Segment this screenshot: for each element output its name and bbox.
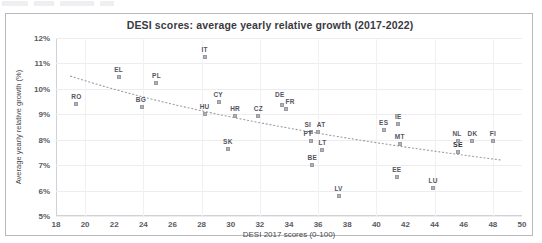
data-point-label-lv: LV (334, 185, 342, 192)
x-tick-label: 28 (197, 220, 206, 229)
data-point-label-es: ES (379, 119, 388, 126)
data-point-label-cz: CZ (254, 105, 263, 112)
data-point-label-si: SI (305, 121, 312, 128)
data-point-dk[interactable] (470, 139, 474, 143)
data-point-label-hu: HU (200, 103, 210, 110)
chart-title: DESI scores: average yearly relative gro… (6, 19, 534, 31)
data-point-label-at: AT (317, 121, 326, 128)
data-point-label-bg: BG (136, 96, 146, 103)
data-point-es[interactable] (382, 128, 386, 132)
data-point-be[interactable] (310, 163, 314, 167)
x-tick-label: 46 (459, 220, 468, 229)
data-point-label-el: EL (114, 66, 123, 73)
gridline-y-5 (56, 216, 522, 217)
data-point-at[interactable] (316, 130, 320, 134)
y-tick-label: 10% (34, 84, 50, 93)
trendline (56, 38, 522, 216)
data-point-cz[interactable] (256, 114, 260, 118)
data-point-sk[interactable] (226, 147, 230, 151)
data-point-label-be: BE (308, 154, 317, 161)
data-point-hu[interactable] (203, 112, 207, 116)
x-tick-label: 22 (110, 220, 119, 229)
data-point-lt[interactable] (320, 148, 324, 152)
y-tick-label: 9% (38, 110, 50, 119)
data-point-lu[interactable] (431, 186, 435, 190)
data-point-label-cy: CY (213, 91, 222, 98)
data-point-label-lt: LT (319, 139, 327, 146)
data-point-ro[interactable] (74, 102, 78, 106)
data-point-it[interactable] (203, 55, 207, 59)
chart-figure: DESI scores: average yearly relative gro… (5, 13, 533, 236)
data-point-label-fi: FI (490, 130, 496, 137)
y-tick-label: 12% (34, 34, 50, 43)
data-point-label-it: IT (201, 46, 207, 53)
x-tick-label: 50 (518, 220, 527, 229)
data-point-label-dk: DK (468, 130, 478, 137)
data-point-ie[interactable] (396, 122, 400, 126)
data-point-pl[interactable] (154, 81, 158, 85)
data-point-label-pl: PL (152, 72, 161, 79)
x-tick-label: 24 (139, 220, 148, 229)
scan-artifact-strip (0, 0, 542, 9)
y-tick-label: 5% (38, 212, 50, 221)
data-point-label-lu: LU (429, 177, 438, 184)
data-point-el[interactable] (117, 75, 121, 79)
data-point-label-sk: SK (223, 138, 232, 145)
x-tick-label: 40 (372, 220, 381, 229)
data-point-label-mt: MT (395, 133, 405, 140)
data-point-label-hr: HR (230, 105, 240, 112)
data-point-bg[interactable] (140, 105, 144, 109)
data-point-nl[interactable] (456, 139, 460, 143)
y-tick-label: 6% (38, 186, 50, 195)
data-point-lv[interactable] (337, 194, 341, 198)
data-point-hr[interactable] (233, 114, 237, 118)
x-tick-label: 42 (401, 220, 410, 229)
data-point-se[interactable] (456, 150, 460, 154)
x-tick-label: 32 (255, 220, 264, 229)
plot-area: 5%6%7%8%9%10%11%12% 18202224262830323436… (56, 38, 522, 216)
data-point-label-nl: NL (452, 130, 461, 137)
x-tick-label: 36 (314, 220, 323, 229)
data-point-cy[interactable] (217, 100, 221, 104)
x-tick-label: 34 (285, 220, 294, 229)
x-tick-label: 26 (168, 220, 177, 229)
data-point-label-ee: EE (392, 166, 401, 173)
data-point-label-fr: FR (286, 98, 295, 105)
y-axis-title: Average yearly relative growth (%) (14, 38, 28, 216)
data-point-mt[interactable] (398, 142, 402, 146)
x-axis-title: DESI 2017 scores (0-100) (56, 230, 522, 239)
y-tick-label: 11% (34, 59, 50, 68)
data-point-label-ie: IE (395, 113, 402, 120)
x-tick-label: 38 (343, 220, 352, 229)
x-tick-label: 18 (52, 220, 61, 229)
y-tick-label: 8% (38, 135, 50, 144)
data-point-fr[interactable] (284, 107, 288, 111)
data-point-label-pt: PT (303, 130, 312, 137)
x-tick-label: 20 (81, 220, 90, 229)
data-point-fi[interactable] (491, 139, 495, 143)
x-tick-label: 48 (488, 220, 497, 229)
data-point-pt[interactable] (309, 139, 313, 143)
x-tick-label: 44 (430, 220, 439, 229)
data-point-ee[interactable] (395, 175, 399, 179)
y-tick-label: 7% (38, 161, 50, 170)
x-tick-label: 30 (226, 220, 235, 229)
data-point-label-ro: RO (71, 93, 81, 100)
data-point-label-de: DE (275, 91, 284, 98)
